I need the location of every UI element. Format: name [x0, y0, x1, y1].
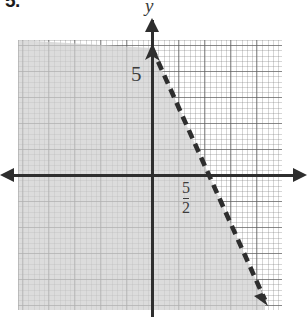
inequality-graph-figure: 5. y 5 5 2: [0, 0, 307, 317]
fraction-numerator: 5: [182, 180, 190, 197]
y-intercept-label: 5: [131, 64, 142, 85]
fraction: 5 2: [182, 180, 190, 216]
boundary-line-dashed: [152, 48, 265, 300]
fraction-denominator: 2: [182, 200, 190, 217]
boundary-line-arrow-up-icon: [145, 44, 160, 61]
boundary-line: [0, 0, 307, 317]
x-intercept-label: 5 2: [177, 180, 195, 216]
